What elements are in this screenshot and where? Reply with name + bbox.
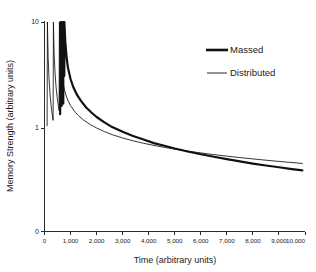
y-tick-group: 0110 bbox=[31, 18, 44, 235]
y-tick-label: 1 bbox=[35, 124, 39, 131]
x-axis-title: Time (arbitrary units) bbox=[134, 255, 217, 265]
x-tick-label: 6,000 bbox=[193, 237, 209, 244]
legend: Massed Distributed bbox=[206, 44, 275, 78]
chart-svg: 0110 01,0002,0003,0004,0005,0006,0007,00… bbox=[0, 0, 316, 272]
legend-label-distributed: Distributed bbox=[230, 67, 275, 78]
x-tick-label: 7,000 bbox=[219, 237, 235, 244]
x-tick-label: 4,000 bbox=[141, 237, 157, 244]
y-tick-label: 10 bbox=[31, 18, 39, 25]
x-tick-label: 2,000 bbox=[89, 237, 105, 244]
x-tick-label: 0 bbox=[43, 237, 47, 244]
x-tick-label: 10,000 bbox=[286, 237, 305, 244]
x-tick-label: 3,000 bbox=[115, 237, 131, 244]
y-axis-title: Memory Strength (arbitrary units) bbox=[5, 60, 15, 192]
chart-figure: 0110 01,0002,0003,0004,0005,0006,0007,00… bbox=[0, 0, 316, 272]
x-tick-label: 5,000 bbox=[167, 237, 183, 244]
x-tick-group: 01,0002,0003,0004,0005,0006,0007,0008,00… bbox=[43, 232, 306, 244]
x-tick-label: 9,000 bbox=[271, 237, 287, 244]
series-layer bbox=[47, 22, 302, 170]
y-tick-label: 0 bbox=[35, 228, 39, 235]
x-tick-label: 8,000 bbox=[245, 237, 261, 244]
x-tick-label: 1,000 bbox=[63, 237, 79, 244]
series-line-distributed bbox=[47, 22, 302, 163]
legend-label-massed: Massed bbox=[230, 44, 263, 55]
series-line-massed bbox=[60, 22, 302, 170]
